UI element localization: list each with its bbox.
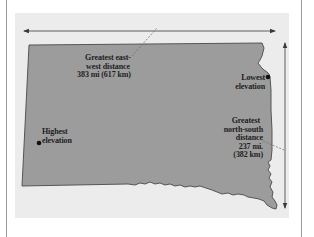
highest-elevation-label-line2: elevation — [42, 137, 92, 146]
east-west-distance-label: Greatest east- west distance 383 mi (617… — [78, 54, 138, 80]
lowest-elevation-label: Lowest elevation — [222, 74, 265, 91]
highest-elevation-marker — [37, 141, 42, 146]
lowest-elevation-marker — [266, 75, 271, 80]
highest-elevation-label: Highest elevation — [42, 128, 92, 145]
north-south-label-line5: (382 km) — [213, 151, 263, 160]
state-map-diagram — [0, 0, 314, 237]
east-west-label-line3: 383 mi (617 km) — [70, 71, 138, 80]
lowest-elevation-label-line2: elevation — [222, 83, 265, 92]
north-south-distance-label: Greatest north-south distance 237 mi. (3… — [213, 117, 263, 160]
